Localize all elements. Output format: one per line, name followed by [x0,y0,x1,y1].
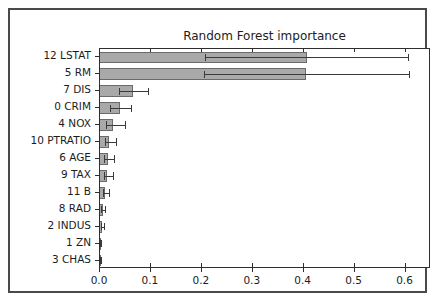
x-tick-mark-inner [252,263,253,268]
x-tick-mark [303,268,304,272]
error-bar-cap-high [113,172,114,179]
error-bar-cap-low [204,71,205,78]
x-tick-label-0.2: 0.2 [192,274,209,286]
x-tick-mark-inner [354,263,355,268]
x-tick-label-0.5: 0.5 [345,274,362,286]
error-bar-cap-high [104,223,105,230]
y-tick-mark [95,243,99,244]
y-tick-mark [95,107,99,108]
y-tick-label-3-chas: 3 CHAS [52,254,91,265]
y-tick-label-11-b: 11 B [67,186,91,197]
chart-title: Random Forest importance [99,29,430,43]
error-bar-cap-low [110,105,111,112]
x-tick-mark [99,268,100,272]
error-bar-line [119,91,148,92]
y-tick-mark [95,56,99,57]
error-bar-cap-low [104,172,105,179]
bar-row [100,136,429,148]
bar-row [100,170,429,182]
error-bar-line [110,108,132,109]
x-tick-mark [150,268,151,272]
bar-row [100,187,429,199]
error-bar-cap-high [409,71,410,78]
y-tick-mark [95,141,99,142]
x-tick-mark [252,268,253,272]
y-tick-label-12-lstat: 12 LSTAT [43,50,91,61]
y-tick-label-7-dis: 7 DIS [63,84,91,95]
x-tick-mark-inner [150,263,151,268]
y-tick-mark [95,209,99,210]
x-tick-mark-inner [303,263,304,268]
bar-row [100,238,429,250]
x-tick-mark-top [252,48,253,52]
x-tick-mark-top [354,48,355,52]
error-bar-line [204,74,408,75]
y-tick-mark [95,192,99,193]
error-bar-cap-high [105,206,106,213]
error-bar-line [104,159,114,160]
error-bar-line [104,176,113,177]
x-tick-mark-top [99,48,100,52]
y-tick-mark [95,124,99,125]
y-tick-mark [95,260,99,261]
x-tick-mark [405,268,406,272]
y-tick-mark [95,175,99,176]
y-tick-mark [95,158,99,159]
x-tick-mark-inner [99,263,100,268]
error-bar-line [105,142,117,143]
error-bar-cap-low [101,206,102,213]
error-bar-cap-high [125,121,126,128]
plot-axes [99,48,430,268]
error-bar-cap-high [101,257,102,264]
error-bar-cap-high [408,54,409,61]
error-bar-cap-low [205,54,206,61]
y-tick-label-8-rad: 8 RAD [59,203,91,214]
error-bar-cap-high [114,155,115,162]
y-tick-label-1-zn: 1 ZN [66,237,91,248]
bar-row [100,52,429,64]
x-tick-mark-top [201,48,202,52]
y-tick-label-6-age: 6 AGE [59,152,91,163]
error-bar-cap-low [101,223,102,230]
error-bar-cap-low [119,88,120,95]
x-tick-mark-inner [405,263,406,268]
x-tick-mark-top [150,48,151,52]
x-tick-label-0.3: 0.3 [243,274,260,286]
x-tick-label-0.0: 0.0 [91,274,108,286]
x-tick-mark [201,268,202,272]
y-tick-label-9-tax: 9 TAX [61,169,91,180]
error-bar-cap-low [105,138,106,145]
bar-row [100,221,429,233]
error-bar-cap-high [131,105,132,112]
error-bar-cap-low [104,155,105,162]
y-tick-mark [95,73,99,74]
x-tick-label-0.6: 0.6 [396,274,413,286]
bar-row [100,85,429,97]
x-tick-label-0.1: 0.1 [142,274,159,286]
y-tick-label-2-indus: 2 INDUS [48,220,91,231]
x-tick-mark-top [405,48,406,52]
bar-row [100,68,429,80]
error-bar-cap-low [103,189,104,196]
bar-row [100,102,429,114]
y-tick-label-10-ptratio: 10 PTRATIO [31,135,91,146]
x-tick-mark-inner [201,263,202,268]
error-bar-cap-high [148,88,149,95]
figure-outer-border: Random Forest importance 12 LSTAT5 RM7 D… [8,8,427,293]
error-bar-cap-low [106,121,107,128]
y-tick-mark [95,226,99,227]
error-bar-cap-high [116,138,117,145]
y-tick-mark [95,90,99,91]
bar-row [100,153,429,165]
y-tick-label-5-rm: 5 RM [65,67,91,78]
bar-row [100,119,429,131]
error-bar-line [205,57,408,58]
error-bar-cap-high [101,240,102,247]
x-tick-label-0.4: 0.4 [294,274,311,286]
x-tick-mark [354,268,355,272]
figure-canvas: Random Forest importance 12 LSTAT5 RM7 D… [0,0,435,302]
error-bar-cap-high [109,189,110,196]
y-tick-label-0-crim: 0 CRIM [54,101,91,112]
x-tick-mark-top [303,48,304,52]
bars-layer [100,49,429,267]
